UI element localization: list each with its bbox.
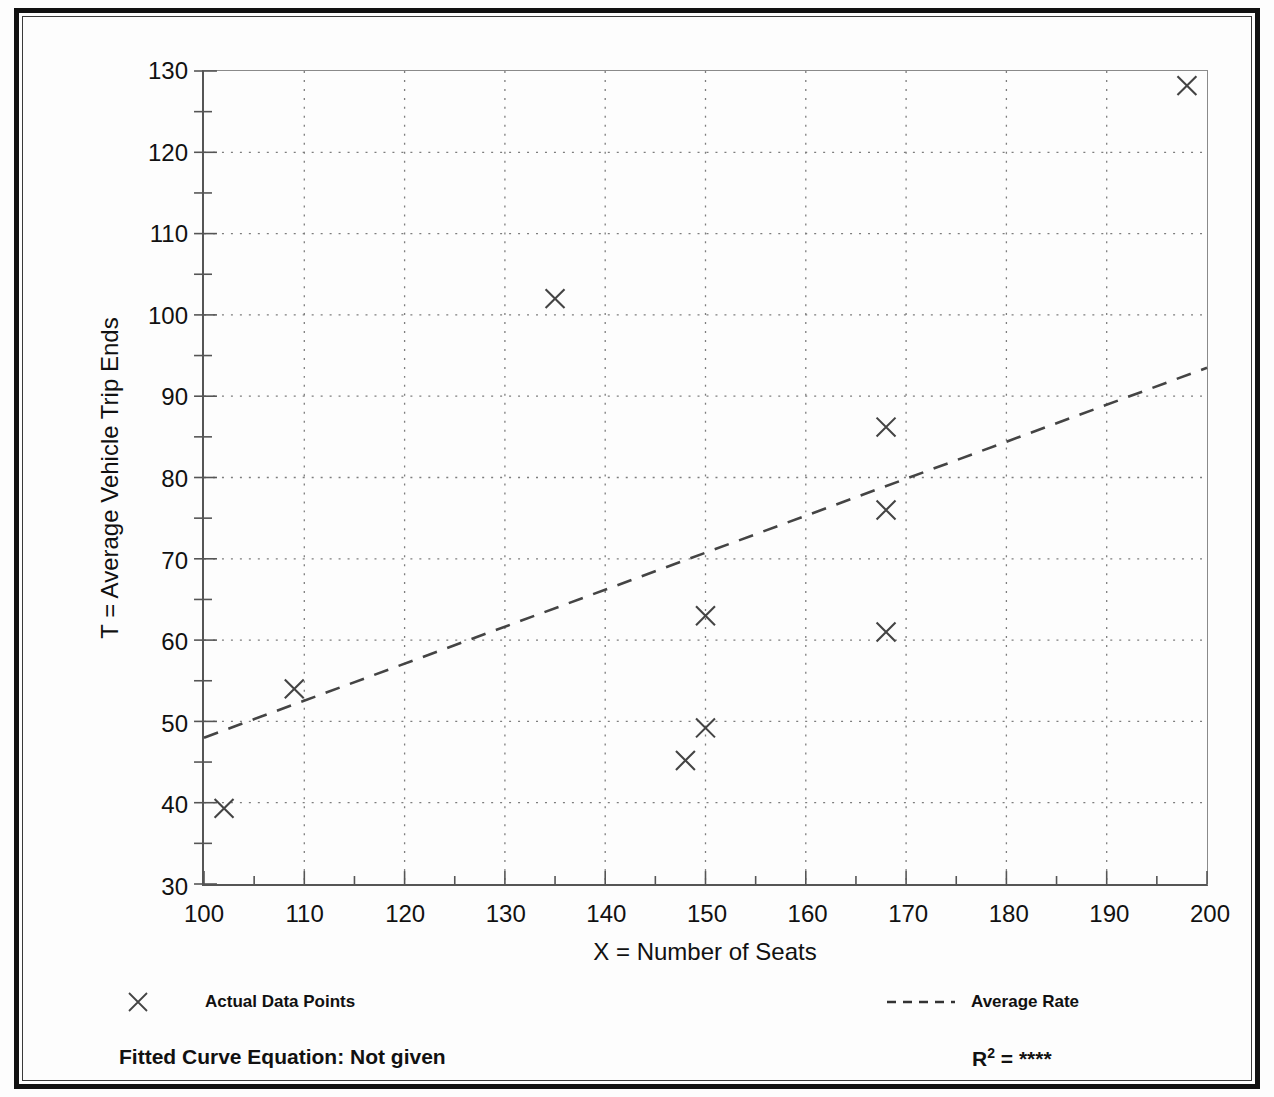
r-squared-prefix: R: [972, 1047, 987, 1070]
legend-item-average-rate: Average Rate: [885, 992, 1079, 1012]
x-axis-tick-label: 160: [788, 900, 828, 928]
r-squared-annotation: R2 = ****: [972, 1045, 1052, 1071]
y-axis-tick-label: 110: [150, 220, 188, 248]
y-axis-tick-label: 40: [161, 791, 188, 819]
y-axis-tick-label: 100: [148, 302, 188, 330]
figure-frame: T = Average Vehicle Trip Ends 3040506070…: [14, 8, 1260, 1089]
data-point-marker: [1177, 76, 1196, 95]
x-axis-tick-label: 120: [385, 900, 425, 928]
chart-legend: Actual Data Points Average Rate: [19, 988, 1265, 1030]
y-axis-tick-label: 90: [161, 383, 188, 411]
data-point-marker: [877, 501, 896, 520]
x-axis-tick-label: 180: [989, 900, 1029, 928]
data-point-marker: [696, 606, 715, 625]
data-layer: [204, 71, 1207, 884]
x-marker-icon: [119, 992, 191, 1012]
r-squared-exponent: 2: [987, 1045, 995, 1061]
chart-region: T = Average Vehicle Trip Ends 3040506070…: [19, 13, 1265, 1094]
fitted-curve-equation: Fitted Curve Equation: Not given: [119, 1045, 446, 1069]
x-axis-tick-label: 200: [1190, 900, 1230, 928]
data-point-marker: [285, 679, 304, 698]
y-axis-tick-label: 70: [161, 547, 188, 575]
x-axis-tick-label: 190: [1089, 900, 1129, 928]
legend-item-data-points: Actual Data Points: [119, 992, 355, 1012]
plot-area: 3040506070809010011012013010011012013014…: [202, 70, 1208, 886]
r-squared-equals: =: [995, 1047, 1019, 1070]
data-point-marker: [877, 623, 896, 642]
legend-label-average-rate: Average Rate: [971, 992, 1079, 1012]
dashed-line-icon: [885, 992, 957, 1012]
y-axis-tick-label: 130: [148, 57, 188, 85]
x-axis-tick-label: 110: [285, 900, 323, 928]
y-axis-title: T = Average Vehicle Trip Ends: [93, 70, 127, 886]
y-axis-tick-label: 50: [161, 710, 188, 738]
y-axis-tick-label: 120: [148, 139, 188, 167]
data-point-marker: [676, 751, 695, 770]
x-axis-title: X = Number of Seats: [202, 938, 1208, 966]
y-axis-title-text: T = Average Vehicle Trip Ends: [96, 317, 124, 638]
trendline-average-rate: [204, 368, 1207, 738]
y-axis-tick-label: 60: [161, 628, 188, 656]
chart-footer: Fitted Curve Equation: Not given R2 = **…: [19, 1033, 1265, 1085]
data-point-marker: [215, 799, 234, 818]
data-point-marker: [696, 718, 715, 737]
x-axis-tick-label: 150: [687, 900, 727, 928]
data-point-marker: [546, 289, 565, 308]
x-axis-tick-label: 140: [586, 900, 626, 928]
legend-label-data-points: Actual Data Points: [205, 992, 355, 1012]
x-axis-tick-label: 100: [184, 900, 224, 928]
r-squared-value: ****: [1019, 1047, 1052, 1070]
data-point-marker: [877, 418, 896, 437]
y-axis-tick-label: 30: [161, 873, 188, 901]
y-axis-tick-label: 80: [161, 465, 188, 493]
x-axis-tick-label: 130: [486, 900, 526, 928]
chart-page: T = Average Vehicle Trip Ends 3040506070…: [0, 0, 1274, 1097]
x-axis-tick-label: 170: [888, 900, 928, 928]
